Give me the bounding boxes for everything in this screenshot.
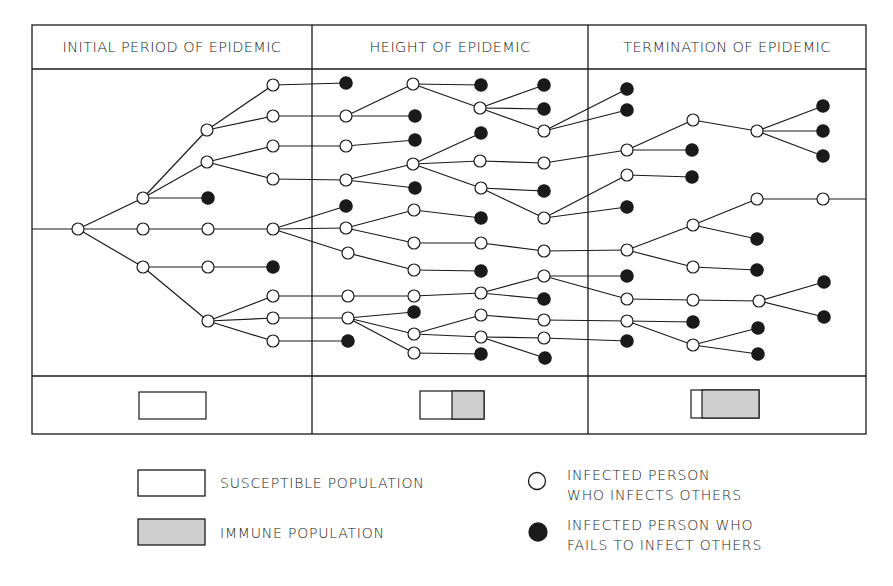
infecting-person-node	[687, 219, 699, 231]
transmission-edge	[414, 210, 481, 218]
transmission-edge	[413, 133, 481, 164]
legend-fails-line1: INFECTED PERSON WHO	[567, 515, 762, 535]
header-initial-period: INITIAL PERIOD OF EPIDEMIC	[32, 25, 312, 69]
transmission-edge	[348, 312, 414, 318]
non-infecting-person-node	[340, 77, 352, 89]
transmission-edge	[143, 267, 208, 321]
transmission-edge	[348, 318, 414, 353]
non-infecting-person-node	[686, 171, 698, 183]
transmission-edge	[273, 179, 346, 180]
legend-fails-line2: FAILS TO INFECT OTHERS	[567, 535, 762, 555]
transmission-edge	[481, 293, 544, 299]
infecting-person-node	[408, 347, 420, 359]
legend-open-node-icon	[529, 473, 546, 490]
transmission-edge	[414, 334, 481, 337]
non-infecting-person-node	[475, 265, 487, 277]
infecting-person-node	[342, 312, 354, 324]
infecting-person-node	[137, 261, 149, 273]
legend-susceptible-label: SUSCEPTIBLE POPULATION	[220, 473, 425, 493]
transmission-edge	[480, 85, 544, 108]
infecting-person-node	[751, 125, 763, 137]
transmission-edge	[414, 353, 481, 354]
transmission-edge	[627, 175, 692, 177]
non-infecting-person-node	[475, 212, 487, 224]
transmission-edge	[544, 175, 627, 218]
infecting-person-node	[538, 212, 550, 224]
infecting-person-node	[267, 335, 279, 347]
infecting-person-node	[267, 173, 279, 185]
infecting-person-node	[201, 156, 213, 168]
infecting-person-node	[267, 79, 279, 91]
infecting-person-node	[201, 124, 213, 136]
transmission-edge	[693, 345, 758, 354]
infecting-person-node	[267, 312, 279, 324]
infecting-person-node	[407, 158, 419, 170]
infecting-person-node	[538, 157, 550, 169]
non-infecting-person-node	[817, 150, 829, 162]
legend-filled-node-icon	[529, 523, 547, 541]
legend-infects-label: INFECTED PERSON WHO INFECTS OTHERS	[567, 465, 742, 505]
transmission-edge	[348, 318, 414, 334]
transmission-edge	[78, 198, 143, 229]
transmission-edge	[693, 300, 759, 301]
transmission-edge	[348, 253, 414, 270]
non-infecting-person-node	[687, 316, 699, 328]
transmission-edge	[413, 84, 480, 108]
transmission-edge	[693, 225, 757, 239]
non-infecting-person-node	[538, 79, 550, 91]
transmission-edge	[759, 301, 824, 317]
non-infecting-person-node	[817, 125, 829, 137]
non-infecting-person-node	[621, 104, 633, 116]
transmission-edge	[481, 337, 545, 358]
infecting-person-node	[538, 314, 550, 326]
non-infecting-person-node	[409, 134, 421, 146]
legend-infects-line1: INFECTED PERSON	[567, 465, 742, 485]
transmission-edge	[414, 293, 481, 296]
infecting-person-node	[340, 140, 352, 152]
infecting-person-node	[408, 237, 420, 249]
transmission-edge	[273, 83, 346, 85]
transmission-edge	[627, 321, 693, 322]
transmission-edge	[544, 320, 627, 321]
transmission-edge	[757, 106, 823, 131]
non-infecting-person-node	[818, 276, 830, 288]
non-infecting-person-node	[751, 264, 763, 276]
transmission-edge	[481, 188, 544, 191]
infecting-person-node	[267, 140, 279, 152]
non-infecting-person-node	[686, 144, 698, 156]
infecting-person-node	[475, 182, 487, 194]
legend-fails-label: INFECTED PERSON WHO FAILS TO INFECT OTHE…	[567, 515, 762, 555]
infecting-person-node	[538, 125, 550, 137]
infecting-person-node	[408, 204, 420, 216]
non-infecting-person-node	[751, 233, 763, 245]
infecting-person-node	[202, 223, 214, 235]
infecting-person-node	[621, 244, 633, 256]
transmission-edge	[414, 270, 481, 271]
non-infecting-person-node	[342, 335, 354, 347]
transmission-edge	[627, 225, 693, 250]
transmission-edge	[273, 229, 348, 253]
infecting-person-node	[408, 264, 420, 276]
transmission-edge	[627, 250, 693, 267]
non-infecting-person-node	[475, 79, 487, 91]
transmission-edge	[481, 243, 544, 251]
non-infecting-person-node	[817, 100, 829, 112]
transmission-edge	[413, 164, 481, 188]
infecting-person-node	[408, 290, 420, 302]
infecting-person-node	[340, 110, 352, 122]
infecting-person-node	[267, 110, 279, 122]
transmission-edge	[346, 84, 413, 116]
transmission-edge	[273, 228, 346, 229]
infecting-person-node	[340, 174, 352, 186]
transmission-edge	[414, 315, 481, 334]
non-infecting-person-node	[538, 185, 550, 197]
transmission-edge	[273, 206, 346, 229]
non-infecting-person-node	[538, 293, 550, 305]
non-infecting-person-node	[539, 352, 551, 364]
transmission-edge	[481, 276, 544, 293]
transmission-edge	[346, 164, 413, 180]
transmission-edge	[544, 89, 627, 131]
transmission-edge	[693, 199, 757, 225]
non-infecting-person-node	[202, 192, 214, 204]
transmission-edge	[346, 228, 414, 243]
